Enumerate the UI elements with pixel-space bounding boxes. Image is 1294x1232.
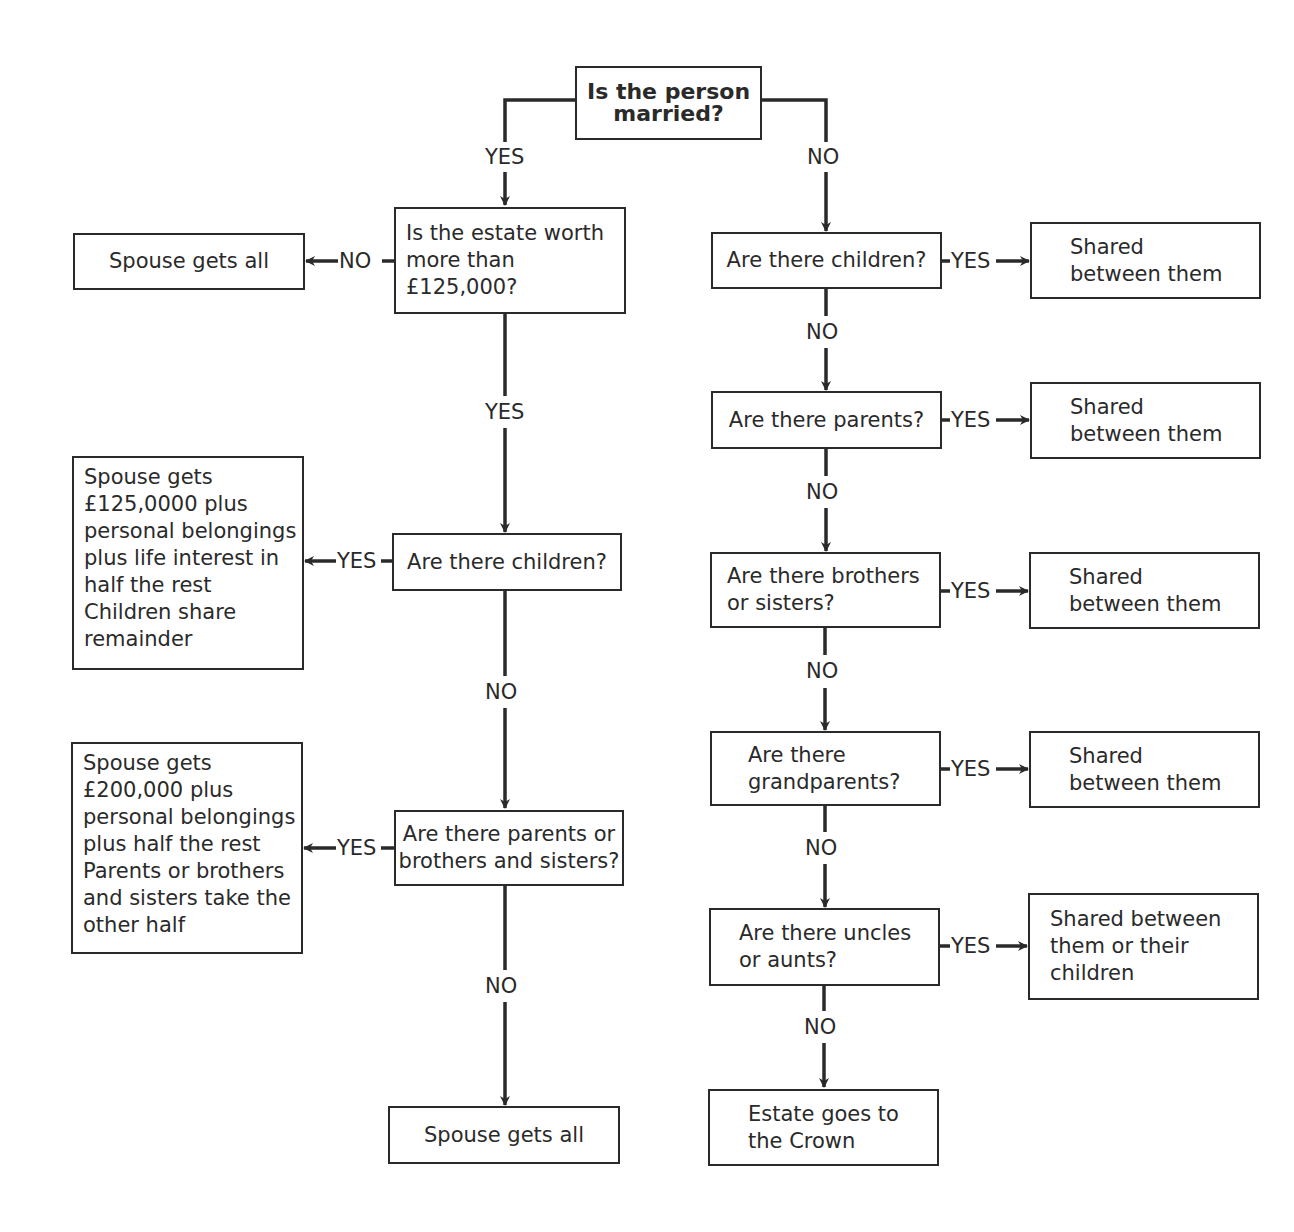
label-yes-parents-unmarried: YES: [950, 408, 991, 432]
question-parents-siblings: Are there parents or brothers and sister…: [394, 810, 624, 886]
label-yes-parents-siblings: YES: [336, 836, 377, 860]
question-children-unmarried: Are there children?: [711, 232, 942, 289]
label-no-children-unmarried: NO: [805, 320, 839, 344]
label-no-married: NO: [806, 145, 840, 169]
result-shared-uncles-aunts: Shared between them or their children: [1028, 893, 1259, 1000]
label-no-children-married: NO: [484, 680, 518, 704]
result-parents-siblings-share: Spouse gets £200,000 plus personal belon…: [71, 742, 303, 954]
question-grandparents: Are there grandparents?: [710, 731, 941, 806]
label-no-grandparents: NO: [804, 836, 838, 860]
label-yes-children-unmarried: YES: [950, 249, 991, 273]
result-estate-to-crown: Estate goes to the Crown: [708, 1089, 939, 1166]
label-no-siblings: NO: [805, 659, 839, 683]
label-yes-married: YES: [484, 145, 525, 169]
result-shared-siblings: Shared between them: [1029, 552, 1260, 629]
result-shared-parents: Shared between them: [1030, 382, 1261, 459]
label-yes-children-married: YES: [336, 549, 377, 573]
label-yes-siblings: YES: [950, 579, 991, 603]
label-no-estate: NO: [338, 249, 372, 273]
result-shared-grandparents: Shared between them: [1029, 731, 1260, 808]
result-spouse-gets-all-1: Spouse gets all: [73, 233, 305, 290]
root-question-married: Is the person married?: [575, 66, 762, 140]
question-estate-value: Is the estate worth more than £125,000?: [394, 207, 626, 314]
result-spouse-gets-all-2: Spouse gets all: [388, 1106, 620, 1164]
question-siblings: Are there brothers or sisters?: [710, 552, 941, 628]
label-yes-uncles-aunts: YES: [950, 934, 991, 958]
inheritance-flowchart: Is the person married? YES NO Is the est…: [0, 0, 1294, 1232]
label-no-parents-siblings: NO: [484, 974, 518, 998]
label-yes-grandparents: YES: [950, 757, 991, 781]
question-uncles-aunts: Are there uncles or aunts?: [709, 908, 940, 986]
label-no-uncles-aunts: NO: [803, 1015, 837, 1039]
result-shared-children: Shared between them: [1030, 222, 1261, 299]
label-no-parents-unmarried: NO: [805, 480, 839, 504]
question-children-married: Are there children?: [392, 533, 622, 591]
question-parents-unmarried: Are there parents?: [711, 391, 942, 449]
result-children-share: Spouse gets £125,0000 plus personal belo…: [72, 456, 304, 670]
label-yes-estate: YES: [484, 400, 525, 424]
